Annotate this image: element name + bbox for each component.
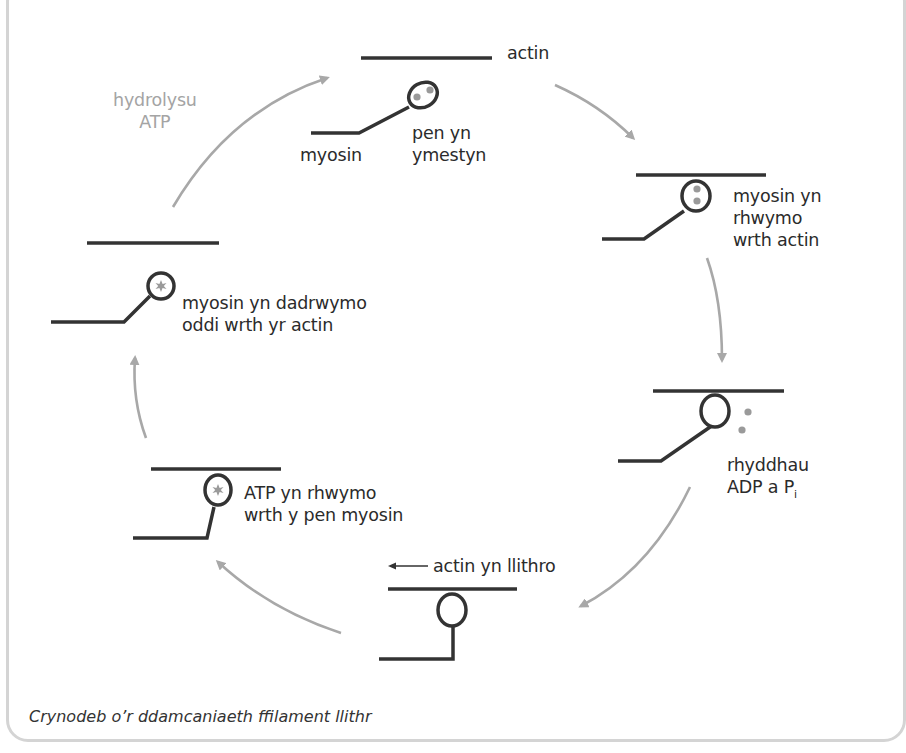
- label-hydrolysis: hydrolysu ATP: [113, 89, 197, 133]
- label-release: rhyddhau ADP a Pi: [727, 454, 809, 506]
- figure-caption: Crynodeb o’r ddamcaniaeth ffilament llit…: [29, 707, 371, 726]
- myosin-filament: [379, 627, 453, 659]
- label-actin-slides: actin yn llithro: [433, 555, 556, 577]
- stage-release-adp-pi: [618, 391, 784, 461]
- arrow-extended-to-binds: [555, 85, 633, 138]
- label-myosin-unbinds: myosin yn dadrwymo oddi wrth yr actin: [182, 292, 367, 336]
- adp-dot: [693, 185, 700, 192]
- label-myosin-binds: myosin yn rhwymo wrth actin: [733, 185, 821, 251]
- label-head-extended: pen yn ymestyn: [412, 122, 486, 166]
- arrow-binds-to-release: [707, 258, 722, 360]
- myosin-filament: [618, 425, 713, 461]
- label-myosin: myosin: [300, 144, 362, 166]
- slide-direction-arrowhead: [388, 563, 396, 570]
- pi-dot: [426, 86, 433, 93]
- myosin-filament: [602, 211, 684, 239]
- myosin-head: [701, 395, 729, 427]
- myosin-head: [404, 77, 442, 113]
- pi-dot: [693, 197, 700, 204]
- released-pi-dot: [744, 408, 751, 415]
- label-release-subscript: i: [794, 488, 797, 501]
- label-actin: actin: [507, 42, 549, 64]
- released-adp-dot: [738, 426, 745, 433]
- arrow-slides-to-atp: [218, 562, 341, 633]
- myosin-head: [682, 181, 710, 211]
- adp-dot: [413, 93, 420, 100]
- myosin-head: [438, 594, 466, 626]
- myosin-filament: [133, 507, 214, 538]
- arrow-atp-to-unbinds: [134, 358, 146, 438]
- myosin-filament: [311, 107, 409, 133]
- arrow-release-to-slides: [581, 487, 690, 606]
- label-atp-binds: ATP yn rhwymo wrth y pen myosin: [244, 482, 403, 526]
- myosin-filament: [51, 296, 150, 322]
